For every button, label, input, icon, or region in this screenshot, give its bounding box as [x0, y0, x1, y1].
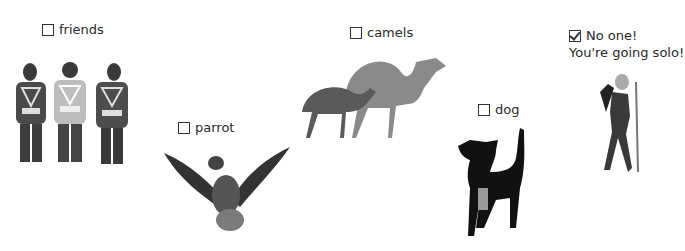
option-solo[interactable]: No one! [569, 28, 637, 44]
friends-illustration [8, 58, 134, 176]
option-friends[interactable]: friends [42, 22, 104, 38]
checkbox-dog[interactable] [478, 104, 490, 116]
option-camels[interactable]: camels [350, 25, 413, 41]
checkbox-camels[interactable] [350, 27, 362, 39]
option-label-parrot: parrot [195, 120, 234, 136]
camels-illustration [296, 52, 448, 142]
checkbox-friends[interactable] [42, 24, 54, 36]
option-label-dog: dog [495, 102, 519, 118]
option-dog[interactable]: dog [478, 102, 519, 118]
checkbox-parrot[interactable] [178, 122, 190, 134]
parrot-illustration [162, 145, 292, 235]
solo-hiker-illustration [596, 72, 646, 176]
checkbox-solo-checked[interactable] [569, 30, 581, 42]
dog-illustration [456, 128, 528, 238]
option-label-friends: friends [59, 22, 104, 38]
option-parrot[interactable]: parrot [178, 120, 234, 136]
option-label-camels: camels [367, 25, 413, 41]
solo-subtext: You're going solo! [569, 45, 684, 60]
option-label-solo: No one! [586, 28, 637, 44]
